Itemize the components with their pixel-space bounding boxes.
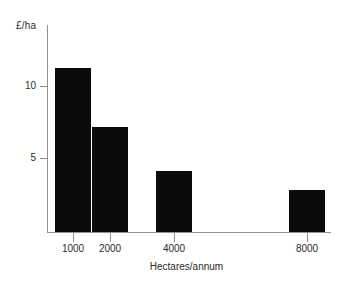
x-tick-mark-8000 <box>307 233 308 242</box>
y-tick-label-5-wrap: 5 <box>8 152 36 164</box>
y-tick-mark-10 <box>40 86 48 87</box>
x-tick-mark-4000 <box>174 233 175 242</box>
y-tick-mark-5 <box>40 158 48 159</box>
x-tick-label-2000: 2000 <box>99 243 121 254</box>
y-tick-label-5: 5 <box>30 152 36 163</box>
x-tick-mark-1000 <box>73 233 74 242</box>
y-axis-line <box>47 25 48 233</box>
x-tick-label-4000: 4000 <box>163 243 185 254</box>
x-tick-label-8000: 8000 <box>296 243 318 254</box>
x-axis-title: Hectares/annum <box>118 261 223 272</box>
y-tick-label-10: 10 <box>25 80 36 91</box>
bar-2000 <box>92 127 128 232</box>
bar-8000 <box>289 190 325 232</box>
bar-4000 <box>156 171 192 232</box>
x-tick-label-1000: 1000 <box>62 243 84 254</box>
y-tick-label-10-wrap: 10 <box>8 80 36 92</box>
bar-1000 <box>55 68 91 232</box>
y-axis-title: £/ha <box>16 20 36 31</box>
x-axis-line <box>47 232 331 233</box>
bar-chart-figure: £/ha 10 5 1000 2000 4000 8000 Hectares/a… <box>0 0 341 290</box>
x-tick-mark-2000 <box>110 233 111 242</box>
x-axis-title-wrap: Hectares/annum <box>0 261 341 272</box>
